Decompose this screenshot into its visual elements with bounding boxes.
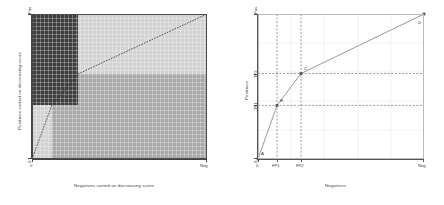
roc-x-tick-fp2 <box>301 159 302 162</box>
roc-graphics <box>258 14 424 159</box>
roc-x-ticklabel-fp2: FP2 <box>296 163 304 168</box>
coverage-curve <box>32 14 207 159</box>
coverage-y-tick-zero <box>28 158 31 159</box>
coverage-plot-area <box>32 14 207 159</box>
roc-x-tick-zero <box>258 159 259 162</box>
roc-x-ticklabel-fp1: FP1 <box>272 163 280 168</box>
roc-x-axis-line <box>258 159 424 160</box>
roc-y-axis-title: Positives <box>244 81 249 100</box>
roc-x-tick-fp1 <box>277 159 278 162</box>
roc-point-label-b: B <box>280 98 283 103</box>
roc-x-axis-title: Negatives <box>325 183 346 188</box>
roc-y-ticklabel-tp1: TP1 <box>253 102 258 110</box>
roc-y-axis-line <box>257 14 258 159</box>
roc-y-tick-zero <box>254 158 257 159</box>
roc-y-tick-pos <box>254 14 257 15</box>
coverage-y-tick-pos <box>28 14 31 15</box>
roc-point-label-d: D <box>418 20 421 25</box>
coverage-x-ticklabel-zero: 0 <box>30 163 32 168</box>
roc-point-label-a: A <box>261 151 264 156</box>
coverage-y-ticklabel-pos: Pos <box>27 7 32 14</box>
coverage-y-axis-title: Positives sorted on decreasing score <box>17 52 22 130</box>
coverage-x-axis-line <box>32 159 207 160</box>
roc-x-ticklabel-neg: Neg <box>418 163 426 168</box>
roc-x-tick-neg <box>423 159 424 162</box>
roc-y-ticklabel-pos: Pos <box>253 7 258 14</box>
roc-point-label-c: C <box>304 66 307 71</box>
coverage-x-axis-title: Negatives sorted on decreasing score <box>74 183 154 188</box>
coverage-x-tick-zero <box>32 159 33 162</box>
coverage-y-axis-line <box>31 14 32 159</box>
roc-x-ticklabel-zero: 0 <box>256 163 258 168</box>
roc-plot-area: A B C D <box>258 14 424 159</box>
two-panel-figure: Pos 0 0 Neg Negatives sorted on decreasi… <box>0 0 444 205</box>
coverage-x-tick-neg <box>206 159 207 162</box>
roc-plot-panel: A B C D Pos TP2 TP1 0 0 FP1 FP2 Neg Nega… <box>222 0 444 205</box>
roc-y-ticklabel-tp2: TP2 <box>253 70 258 78</box>
coverage-plot-panel: Pos 0 0 Neg Negatives sorted on decreasi… <box>0 0 222 205</box>
coverage-x-ticklabel-neg: Neg <box>200 163 208 168</box>
